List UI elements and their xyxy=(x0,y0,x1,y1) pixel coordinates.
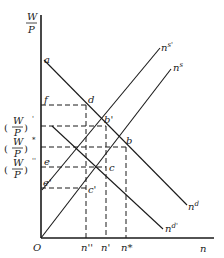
point-e: e xyxy=(44,156,50,167)
label-demand-shifted: nd' xyxy=(165,222,178,234)
ytick-wp-dprime: ( W P ) '' xyxy=(4,157,36,180)
xtick-n-prime: n' xyxy=(101,242,110,253)
svg-text:*: * xyxy=(32,136,36,144)
svg-text:(: ( xyxy=(4,143,8,154)
svg-text:W: W xyxy=(13,115,24,126)
svg-text:'': '' xyxy=(32,157,36,165)
point-b-prime: b' xyxy=(104,114,113,125)
svg-text:(: ( xyxy=(4,164,8,175)
ytick-wp-prime: ( W P ) ' xyxy=(4,115,34,138)
point-f: f xyxy=(43,94,50,105)
origin-label: O xyxy=(33,242,41,253)
xtick-n-star: n* xyxy=(121,242,132,253)
svg-text:': ' xyxy=(32,115,34,123)
y-axis-label-num: W xyxy=(27,11,38,22)
label-demand: nd xyxy=(188,200,199,212)
label-supply: ns xyxy=(173,61,183,73)
point-b: b xyxy=(126,135,132,146)
point-c-prime: c' xyxy=(88,184,96,195)
point-e-prime: e' xyxy=(43,177,52,188)
svg-text:(: ( xyxy=(4,122,8,133)
point-a: a xyxy=(44,54,50,65)
demand-curve-shifted xyxy=(52,126,163,229)
supply-curve-shifted xyxy=(42,48,160,190)
demand-curve xyxy=(44,60,187,205)
x-axis-label: n xyxy=(200,243,206,254)
svg-text:): ) xyxy=(24,143,28,154)
xtick-n-dprime: n'' xyxy=(81,242,93,253)
svg-text:): ) xyxy=(24,122,28,133)
y-axis-label-den: P xyxy=(27,24,35,35)
svg-text:): ) xyxy=(24,164,28,175)
labor-market-diagram: W P a f d b' b e c e' c' ns' ns nd nd' (… xyxy=(0,0,224,258)
svg-text:W: W xyxy=(13,136,24,147)
svg-text:P: P xyxy=(13,169,21,180)
point-d: d xyxy=(88,94,94,105)
point-c: c xyxy=(109,162,115,173)
ytick-wp-star: ( W P ) * xyxy=(4,136,36,159)
svg-text:W: W xyxy=(13,157,24,168)
label-supply-shifted: ns' xyxy=(161,41,173,53)
